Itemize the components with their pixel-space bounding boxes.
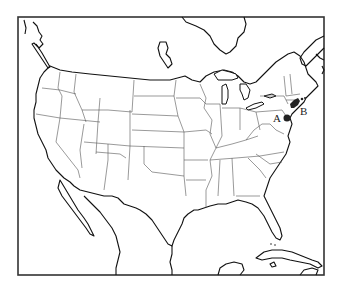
map-figure: A B [0, 0, 341, 292]
lake-michigan [222, 84, 228, 104]
marker-a-dot [284, 115, 291, 122]
map-frame [18, 17, 324, 275]
marker-b-label: B [300, 105, 307, 117]
marker-b-island [304, 97, 306, 99]
marker-a-label: A [273, 112, 281, 124]
marker-b-island [301, 98, 304, 101]
keys-dot [270, 243, 272, 245]
keys-dot [274, 244, 276, 246]
us-map: A B [0, 0, 341, 292]
